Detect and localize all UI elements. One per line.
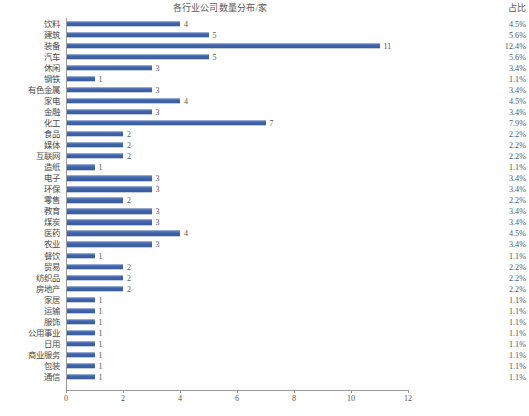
bar[interactable] xyxy=(66,242,152,247)
x-tick-mark xyxy=(294,390,295,393)
percent-column-header: 占比 xyxy=(508,1,526,14)
bar-value-label: 4 xyxy=(180,19,188,28)
category-label: 电子 xyxy=(0,174,62,183)
bar[interactable] xyxy=(66,341,95,346)
bar[interactable] xyxy=(66,98,180,103)
bar-value-label: 1 xyxy=(95,163,103,172)
bar[interactable] xyxy=(66,198,123,203)
x-tick-mark xyxy=(237,390,238,393)
bar-value-label: 3 xyxy=(152,107,160,116)
bar-row: 家居11.1% xyxy=(0,294,529,305)
bar[interactable] xyxy=(66,209,152,214)
category-label: 有色金属 xyxy=(0,85,62,94)
category-label: 农业 xyxy=(0,240,62,249)
bar[interactable] xyxy=(66,187,152,192)
bar[interactable] xyxy=(66,21,180,26)
bar[interactable] xyxy=(66,43,380,48)
category-label: 休闲 xyxy=(0,63,62,72)
bar-value-label: 2 xyxy=(123,284,131,293)
bar-row: 饮料44.5% xyxy=(0,18,529,29)
bar-value-label: 3 xyxy=(152,63,160,72)
bar-track: 11 xyxy=(66,40,408,51)
bar[interactable] xyxy=(66,87,152,92)
bar-track: 1 xyxy=(66,162,408,173)
bar-track: 5 xyxy=(66,29,408,40)
bar-row: 汽车55.6% xyxy=(0,51,529,62)
bar-value-label: 1 xyxy=(95,361,103,370)
bar[interactable] xyxy=(66,142,123,147)
category-label: 媒体 xyxy=(0,141,62,150)
percent-value: 3.4% xyxy=(509,185,526,194)
bar-track: 7 xyxy=(66,117,408,128)
bar-track: 1 xyxy=(66,73,408,84)
category-label: 运输 xyxy=(0,306,62,315)
percent-value: 4.5% xyxy=(509,19,526,28)
bar[interactable] xyxy=(66,253,95,258)
percent-value: 1.1% xyxy=(509,163,526,172)
bar[interactable] xyxy=(66,164,95,169)
category-label: 通信 xyxy=(0,373,62,382)
bar[interactable] xyxy=(66,175,152,180)
category-label: 房地产 xyxy=(0,284,62,293)
bar[interactable] xyxy=(66,352,95,357)
category-label: 包装 xyxy=(0,361,62,370)
bar[interactable] xyxy=(66,65,152,70)
x-tick-label: 6 xyxy=(235,394,239,403)
category-label: 互联网 xyxy=(0,152,62,161)
bar[interactable] xyxy=(66,120,266,125)
bar-value-label: 1 xyxy=(95,328,103,337)
x-tick-label: 4 xyxy=(178,394,182,403)
percent-value: 5.6% xyxy=(509,30,526,39)
bar[interactable] xyxy=(66,153,123,158)
bar-value-label: 1 xyxy=(95,306,103,315)
x-tick-mark xyxy=(408,390,409,393)
bar[interactable] xyxy=(66,308,95,313)
percent-value: 2.2% xyxy=(509,262,526,271)
bar[interactable] xyxy=(66,32,209,37)
bar[interactable] xyxy=(66,319,95,324)
bar-track: 2 xyxy=(66,151,408,162)
bar-value-label: 1 xyxy=(95,339,103,348)
bar[interactable] xyxy=(66,231,180,236)
bar-row: 通信11.1% xyxy=(0,372,529,383)
bar-track: 4 xyxy=(66,18,408,29)
x-tick-label: 0 xyxy=(64,394,68,403)
bar[interactable] xyxy=(66,374,95,379)
bar-value-label: 11 xyxy=(380,41,392,50)
bar[interactable] xyxy=(66,220,152,225)
bar[interactable] xyxy=(66,264,123,269)
percent-value: 1.1% xyxy=(509,295,526,304)
percent-value: 3.4% xyxy=(509,107,526,116)
bar[interactable] xyxy=(66,286,123,291)
bar[interactable] xyxy=(66,363,95,368)
bar-row: 医药44.5% xyxy=(0,228,529,239)
bar[interactable] xyxy=(66,109,152,114)
bar[interactable] xyxy=(66,131,123,136)
bar-value-label: 4 xyxy=(180,96,188,105)
bar-value-label: 4 xyxy=(180,229,188,238)
x-tick-label: 2 xyxy=(121,394,125,403)
bar-row: 贸易22.2% xyxy=(0,261,529,272)
bar-row: 商业服务11.1% xyxy=(0,349,529,360)
bar-value-label: 5 xyxy=(209,30,217,39)
bar-track: 5 xyxy=(66,51,408,62)
bar-row: 农业33.4% xyxy=(0,239,529,250)
bar[interactable] xyxy=(66,297,95,302)
category-label: 纺织品 xyxy=(0,273,62,282)
bar-value-label: 3 xyxy=(152,174,160,183)
bar[interactable] xyxy=(66,54,209,59)
bar-row: 有色金属33.4% xyxy=(0,84,529,95)
bar-row: 造纸11.1% xyxy=(0,162,529,173)
category-label: 日用 xyxy=(0,339,62,348)
bar-track: 1 xyxy=(66,316,408,327)
bar-track: 3 xyxy=(66,184,408,195)
bar-track: 1 xyxy=(66,372,408,383)
bar-row: 金融33.4% xyxy=(0,106,529,117)
bar[interactable] xyxy=(66,76,95,81)
bar[interactable] xyxy=(66,275,123,280)
bar-value-label: 3 xyxy=(152,185,160,194)
percent-value: 1.1% xyxy=(509,74,526,83)
bar[interactable] xyxy=(66,330,95,335)
bar-track: 3 xyxy=(66,62,408,73)
bar-row: 教育33.4% xyxy=(0,206,529,217)
